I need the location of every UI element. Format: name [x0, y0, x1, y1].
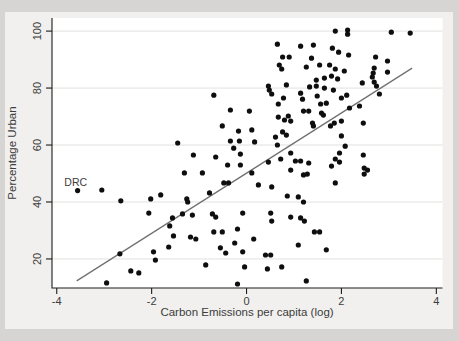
data-point: [228, 138, 233, 143]
data-point: [284, 82, 289, 87]
data-point: [237, 138, 242, 143]
data-point: [377, 91, 382, 96]
data-point: [153, 258, 158, 263]
data-point: [329, 164, 334, 169]
data-point: [344, 93, 349, 98]
data-point: [298, 158, 303, 163]
data-point: [249, 170, 254, 175]
data-point: [158, 192, 163, 197]
data-point: [238, 152, 243, 157]
data-point: [357, 103, 362, 108]
data-point: [185, 199, 190, 204]
data-point: [75, 188, 80, 193]
data-point: [118, 198, 123, 203]
data-point: [317, 229, 322, 234]
data-point: [343, 144, 348, 149]
data-point: [342, 68, 347, 73]
data-point: [268, 211, 273, 216]
data-point: [309, 56, 314, 61]
drc-annotation: DRC: [64, 176, 87, 188]
data-point: [301, 109, 306, 114]
data-point: [269, 184, 274, 189]
data-point: [298, 91, 303, 96]
data-point: [213, 215, 218, 220]
data-point: [327, 62, 332, 67]
data-point: [280, 129, 285, 134]
data-point: [182, 170, 187, 175]
data-point: [287, 54, 292, 59]
data-point: [314, 78, 319, 83]
data-point: [279, 264, 284, 269]
data-point: [296, 194, 301, 199]
data-point: [232, 240, 237, 245]
x-tick-label: 0: [243, 295, 249, 307]
data-point: [347, 105, 352, 110]
data-point: [221, 180, 226, 185]
data-point: [220, 123, 225, 128]
data-point: [373, 54, 378, 59]
data-point: [256, 182, 261, 187]
data-point: [275, 42, 280, 47]
data-point: [324, 247, 329, 252]
data-point: [311, 43, 316, 48]
data-point: [337, 150, 342, 155]
data-point: [328, 123, 333, 128]
data-point: [306, 160, 311, 165]
data-point: [228, 107, 233, 112]
data-point: [277, 62, 282, 67]
data-point: [360, 80, 365, 85]
data-point: [211, 93, 216, 98]
data-point: [273, 135, 278, 140]
data-point: [235, 226, 240, 231]
data-point: [231, 146, 236, 151]
data-point: [314, 84, 319, 89]
data-point: [362, 172, 367, 177]
data-point: [151, 249, 156, 254]
data-point: [365, 168, 370, 173]
data-point: [333, 156, 338, 161]
scatter-chart: 20406080100-4-2024 Percentage Urban Carb…: [0, 0, 459, 341]
data-point: [268, 252, 273, 257]
y-tick-label: 80: [31, 82, 43, 94]
data-point: [200, 170, 205, 175]
data-point: [321, 113, 326, 118]
data-point: [339, 119, 344, 124]
data-point: [286, 113, 291, 118]
data-point: [218, 245, 223, 250]
data-point: [293, 158, 298, 163]
y-tick-label: 40: [31, 196, 43, 208]
data-point: [252, 139, 257, 144]
data-point: [307, 84, 312, 89]
data-point: [339, 133, 344, 138]
data-point: [188, 234, 193, 239]
data-point: [238, 162, 243, 167]
data-point: [266, 160, 271, 165]
data-point: [282, 117, 287, 122]
data-point: [361, 152, 366, 157]
data-point: [193, 236, 198, 241]
data-point: [346, 52, 351, 57]
data-point: [389, 30, 394, 35]
data-point: [278, 156, 283, 161]
data-point: [247, 109, 252, 114]
data-point: [240, 249, 245, 254]
plot-area: [52, 18, 443, 288]
data-point: [335, 76, 340, 81]
data-point: [269, 219, 274, 224]
data-point: [330, 46, 335, 51]
data-point: [265, 266, 270, 271]
x-tick-label: 2: [338, 295, 344, 307]
data-point: [408, 30, 413, 35]
data-point: [276, 115, 281, 120]
data-point: [240, 211, 245, 216]
data-point: [226, 180, 231, 185]
data-point: [128, 268, 133, 273]
data-point: [269, 91, 274, 96]
x-tick-label: -4: [52, 295, 62, 307]
data-point: [166, 244, 171, 249]
x-tick-label: 4: [433, 295, 439, 307]
data-point: [333, 180, 338, 185]
data-point: [251, 236, 256, 241]
data-point: [305, 172, 310, 177]
data-point: [117, 251, 122, 256]
